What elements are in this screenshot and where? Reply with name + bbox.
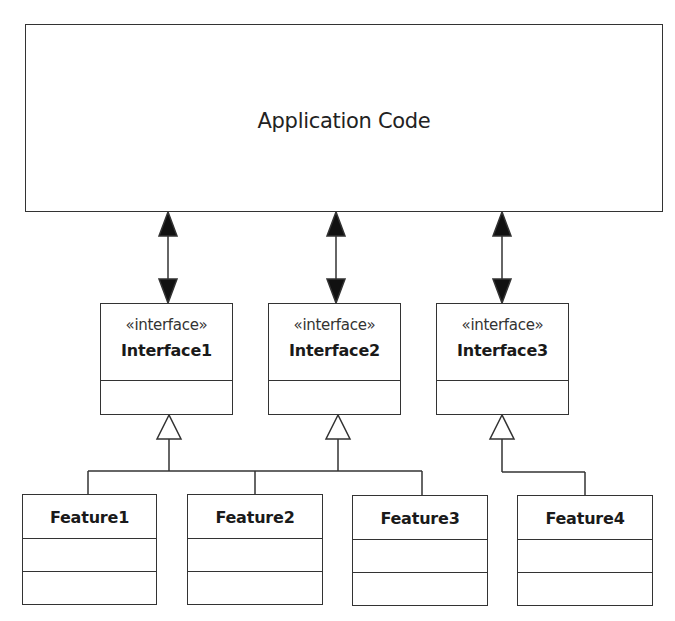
feature1-divider-2 (23, 571, 156, 572)
interface2-divider (269, 380, 400, 381)
interface2-stereotype: «interface» (269, 316, 400, 334)
interface2-box[interactable]: «interface» Interface2 (268, 303, 401, 415)
association-arrow-interface1 (159, 212, 177, 303)
feature3-divider-2 (353, 572, 487, 573)
interface3-box[interactable]: «interface» Interface3 (436, 303, 569, 415)
realization-tree (88, 415, 585, 495)
feature3-box[interactable]: Feature3 (352, 495, 488, 606)
hollow-triangle-icon (326, 415, 350, 439)
feature3-name: Feature3 (353, 509, 487, 528)
arrowhead-up-icon (327, 212, 345, 236)
interface3-name: Interface3 (437, 341, 568, 360)
association-arrow-interface2 (327, 212, 345, 303)
arrowhead-down-icon (327, 279, 345, 303)
interface1-stereotype: «interface» (101, 316, 232, 334)
application-code-box[interactable]: Application Code (25, 24, 663, 212)
feature4-box[interactable]: Feature4 (517, 495, 653, 606)
feature3-divider-1 (353, 539, 487, 540)
hollow-triangle-icon (157, 415, 181, 439)
interface1-name: Interface1 (101, 341, 232, 360)
arrowhead-up-icon (493, 212, 511, 236)
feature1-divider-1 (23, 538, 156, 539)
interface3-divider (437, 380, 568, 381)
interface1-box[interactable]: «interface» Interface1 (100, 303, 233, 415)
feature2-box[interactable]: Feature2 (187, 494, 323, 605)
interface3-stereotype: «interface» (437, 316, 568, 334)
arrowhead-up-icon (159, 212, 177, 236)
interface1-divider (101, 380, 232, 381)
arrowhead-down-icon (493, 279, 511, 303)
hollow-triangle-icon (490, 415, 514, 439)
interface2-name: Interface2 (269, 341, 400, 360)
association-arrow-interface3 (493, 212, 511, 303)
arrowhead-down-icon (159, 279, 177, 303)
feature2-divider-1 (188, 538, 322, 539)
feature4-divider-2 (518, 572, 652, 573)
feature2-name: Feature2 (188, 508, 322, 527)
feature4-name: Feature4 (518, 509, 652, 528)
feature4-divider-1 (518, 539, 652, 540)
feature1-box[interactable]: Feature1 (22, 494, 157, 605)
feature1-name: Feature1 (23, 508, 156, 527)
application-code-label: Application Code (26, 109, 662, 133)
feature2-divider-2 (188, 571, 322, 572)
